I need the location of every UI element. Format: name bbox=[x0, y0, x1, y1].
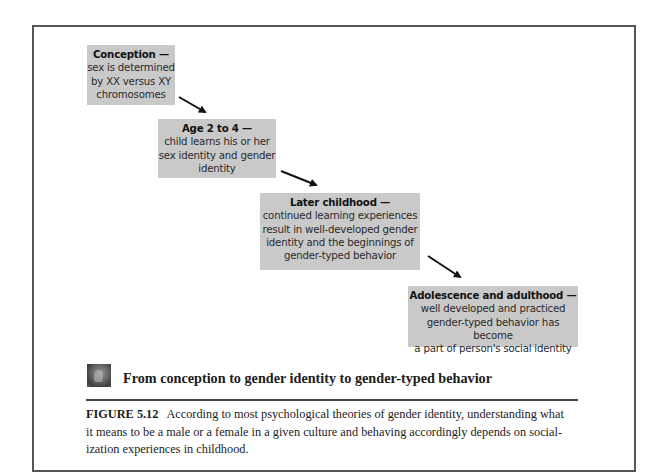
caption-line: FIGURE 5.12According to most psychologic… bbox=[86, 406, 586, 424]
diagram-title: From conception to gender identity to ge… bbox=[123, 370, 492, 387]
stage-body-line: identity and the beginnings of bbox=[260, 236, 420, 249]
stage-body-line: identity bbox=[158, 162, 276, 175]
stage-body-line: sex is determined bbox=[87, 61, 175, 74]
figure-caption: FIGURE 5.12According to most psychologic… bbox=[86, 406, 586, 459]
stage-body-line: chromosomes bbox=[87, 88, 175, 101]
stage-heading: Later childhood — bbox=[260, 196, 420, 209]
stage-body-line: by XX versus XY bbox=[87, 75, 175, 88]
stage-body-line: result in well-developed gender bbox=[260, 223, 420, 236]
stage-body-line: sex identity and gender bbox=[158, 149, 276, 162]
stage-heading: Adolescence and adulthood — bbox=[408, 289, 578, 302]
stage-body-line: a part of person's social identity bbox=[408, 342, 578, 355]
figure-label: FIGURE 5.12 bbox=[86, 407, 158, 421]
stage-body-line: well developed and practiced bbox=[408, 302, 578, 315]
stage-body-line: continued learning experiences bbox=[260, 209, 420, 222]
stage-box-later-childhood: Later childhood — continued learning exp… bbox=[260, 193, 420, 270]
caption-text: According to most psychological theories… bbox=[166, 407, 563, 421]
stage-box-age-2-to-4: Age 2 to 4 — child learns his or her sex… bbox=[158, 119, 276, 178]
stage-body-line: gender-typed behavior bbox=[260, 249, 420, 262]
caption-line: it means to be a male or a female in a g… bbox=[86, 424, 586, 442]
stage-body-line: gender-typed behavior has become bbox=[408, 316, 578, 343]
photo-thumbnail-icon bbox=[87, 364, 111, 387]
divider bbox=[86, 399, 578, 401]
stage-heading: Conception — bbox=[87, 48, 175, 61]
stage-box-conception: Conception — sex is determined by XX ver… bbox=[87, 45, 175, 105]
caption-line: ization experiences in childhood. bbox=[86, 441, 586, 459]
stage-body-line: child learns his or her bbox=[158, 135, 276, 148]
stage-heading: Age 2 to 4 — bbox=[158, 122, 276, 135]
stage-box-adolescence-adulthood: Adolescence and adulthood — well develop… bbox=[408, 286, 578, 347]
